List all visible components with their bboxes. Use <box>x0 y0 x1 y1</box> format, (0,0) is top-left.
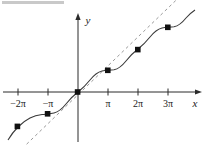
data-point-marker <box>45 111 51 117</box>
x-tick-label-2pi: 2π <box>133 98 143 109</box>
x-tick-label-3pi: 3π <box>163 98 173 109</box>
x-tick-label-pi: π <box>105 98 110 109</box>
x-axis-arrow <box>195 89 202 94</box>
data-point-marker <box>165 25 171 31</box>
graph-figure: −2π −π π 2π 3π x y <box>0 0 212 145</box>
dashed-identity-line <box>5 0 195 145</box>
graph-canvas: −2π −π π 2π 3π x y <box>0 0 212 145</box>
x-tick-label-minus-2pi: −2π <box>10 98 26 109</box>
data-point-marker <box>75 89 81 95</box>
x-tick-label-minus-pi: −π <box>43 98 54 109</box>
data-point-marker <box>15 124 21 130</box>
data-point-marker <box>135 47 141 53</box>
data-point-marker <box>105 68 111 74</box>
x-axis-label: x <box>192 97 198 109</box>
y-axis-label: y <box>85 14 91 26</box>
y-axis-arrow <box>75 13 80 20</box>
